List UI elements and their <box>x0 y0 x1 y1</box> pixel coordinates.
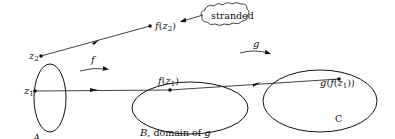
map-g-arrow <box>240 51 268 53</box>
set-b-label: B, domain of g <box>139 127 211 138</box>
label-g-f-z1: g(f(z1)) <box>320 77 355 90</box>
arrow-z2-to-fz2 <box>41 26 150 56</box>
map-f-label: f <box>90 54 97 65</box>
label-z1: z1 <box>23 85 34 98</box>
arrow-z1-to-fz1 <box>35 90 170 91</box>
stranded-callout-text: stranded <box>211 10 254 21</box>
callout-pointer <box>183 15 203 21</box>
map-g-label: g <box>253 38 259 49</box>
set-a-ellipse <box>34 64 66 132</box>
point-f-z2 <box>148 24 152 28</box>
label-z2: z2 <box>28 50 39 63</box>
arrowhead <box>90 88 98 92</box>
map-f-arrow <box>80 68 106 71</box>
set-a-label: A <box>32 132 40 139</box>
point-z2 <box>39 54 43 58</box>
label-f-z2: f(z2) <box>154 20 176 33</box>
function-composition-diagram: z2 z1 f(z2) f(z1) g(f(z1)) f g A B, doma… <box>0 0 395 139</box>
set-c-label: C <box>335 113 342 124</box>
point-f-z1 <box>168 88 172 92</box>
